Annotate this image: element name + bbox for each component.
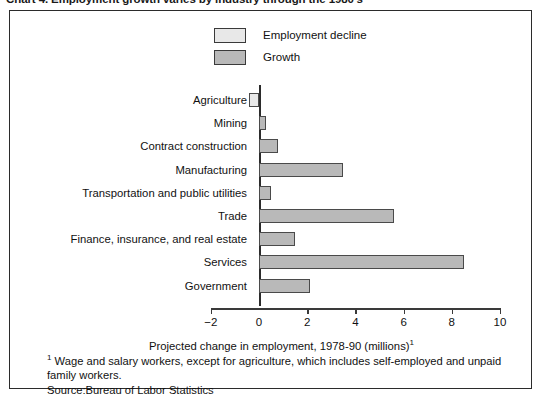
footnotes: 1 Wage and salary workers, except for ag… [47, 351, 517, 397]
x-tick-label-6: 10 [480, 316, 520, 328]
category-label-finance-insurance-and-real-estate: Finance, insurance, and real estate [28, 233, 247, 245]
x-tick-label-0: −2 [191, 316, 231, 328]
x-tick-2 [307, 308, 308, 314]
category-label-services: Services [28, 256, 247, 268]
footnote-source: Source:Bureau of Labor Statistics [47, 383, 517, 398]
bar-manufacturing [259, 163, 343, 177]
category-label-contract-construction: Contract construction [28, 140, 247, 152]
category-label-government: Government [28, 280, 247, 292]
x-tick-3 [355, 308, 356, 314]
plot-area: AgricultureMiningContract constructionMa… [10, 83, 533, 323]
chart-caption: Chart 4. Employment growth varies by ind… [6, 0, 363, 5]
chart-legend: Employment declineGrowth [214, 24, 367, 68]
bar-trade [259, 209, 394, 223]
chart-caption-strip: Chart 4. Employment growth varies by ind… [0, 0, 544, 9]
x-tick-6 [500, 308, 501, 314]
legend-label-decline: Employment decline [263, 29, 367, 41]
legend-label-growth: Growth [263, 51, 300, 63]
legend-swatch-decline [214, 28, 246, 43]
category-label-trade: Trade [28, 210, 247, 222]
bar-government [259, 279, 310, 293]
x-tick-label-4: 6 [384, 316, 424, 328]
x-tick-4 [404, 308, 405, 314]
category-label-mining: Mining [28, 117, 247, 129]
bar-finance-insurance-and-real-estate [259, 232, 295, 246]
bar-services [259, 255, 464, 269]
category-label-agriculture: Agriculture [28, 94, 247, 106]
bar-contract-construction [259, 139, 278, 153]
footnote-note: 1 Wage and salary workers, except for ag… [47, 351, 517, 383]
bar-transportation-and-public-utilities [259, 186, 271, 200]
bar-agriculture [249, 93, 259, 107]
x-tick-0 [211, 308, 212, 314]
category-label-transportation-and-public-utilities: Transportation and public utilities [28, 187, 247, 199]
x-tick-5 [452, 308, 453, 314]
x-tick-label-2: 2 [287, 316, 327, 328]
x-tick-label-1: 0 [239, 316, 279, 328]
chart-frame: Employment declineGrowth AgricultureMini… [9, 10, 532, 389]
legend-item-decline: Employment decline [214, 24, 367, 46]
legend-item-growth: Growth [214, 46, 367, 68]
x-axis-title: Projected change in employment, 1978-90 … [20, 338, 543, 352]
x-tick-label-3: 4 [335, 316, 375, 328]
x-tick-label-5: 8 [432, 316, 472, 328]
legend-swatch-growth [214, 50, 246, 65]
category-label-manufacturing: Manufacturing [28, 164, 247, 176]
bar-mining [259, 116, 266, 130]
